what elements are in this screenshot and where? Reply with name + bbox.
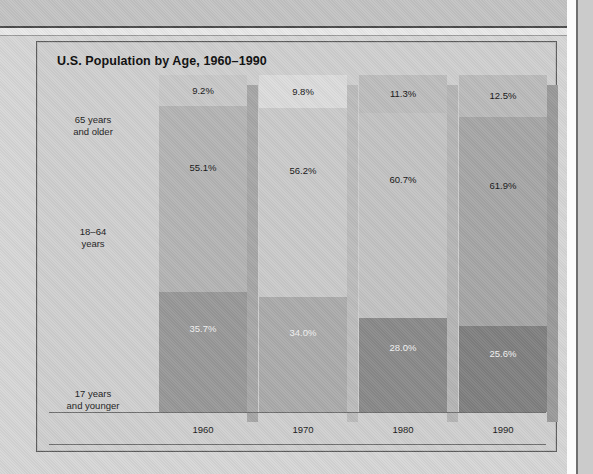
bar-side-shadow bbox=[447, 85, 458, 422]
bar-segment-value-label: 12.5% bbox=[459, 90, 547, 101]
bar-segment-value-label: 35.7% bbox=[159, 323, 247, 334]
bar-segment[interactable]: 55.1% bbox=[159, 106, 247, 292]
bar-segment[interactable]: 25.6% bbox=[459, 326, 547, 412]
age-group-label-line2: years bbox=[45, 238, 141, 250]
bar-segment[interactable]: 12.5% bbox=[459, 75, 547, 117]
bar-segment-value-label: 9.8% bbox=[259, 86, 347, 97]
age-group-label-line1: 17 years bbox=[45, 388, 141, 400]
x-axis-line-top bbox=[49, 412, 546, 413]
chart-plot-area: 65 yearsand older18–64years17 yearsand y… bbox=[37, 42, 558, 453]
x-axis-tick-label-1980: 1980 bbox=[359, 424, 447, 435]
bar-segment[interactable]: 35.7% bbox=[159, 292, 247, 412]
age-group-label-line1: 65 years bbox=[45, 114, 141, 126]
bar-segment-value-label: 25.6% bbox=[459, 348, 547, 359]
bar-side-shadow bbox=[347, 85, 358, 422]
scanned-page: U.S. Population by Age, 1960–1990 65 yea… bbox=[0, 0, 593, 474]
age-group-label-line2: and older bbox=[45, 126, 141, 138]
bar-stack-1960[interactable]: 9.2%55.1%35.7% bbox=[159, 75, 247, 412]
x-axis-tick-label-1960: 1960 bbox=[159, 424, 247, 435]
bar-segment-value-label: 34.0% bbox=[259, 327, 347, 338]
page-right-edge-rule bbox=[576, 0, 578, 474]
bar-segment[interactable]: 9.8% bbox=[259, 75, 347, 108]
age-group-label-0: 65 yearsand older bbox=[45, 114, 141, 137]
bar-segment[interactable]: 61.9% bbox=[459, 117, 547, 326]
bar-segment-value-label: 55.1% bbox=[159, 162, 247, 173]
x-axis-line-bottom bbox=[49, 444, 546, 445]
bar-segment-value-label: 60.7% bbox=[359, 174, 447, 185]
bar-side-shadow bbox=[547, 85, 558, 422]
bar-segment[interactable]: 9.2% bbox=[159, 75, 247, 106]
bar-stack-1990[interactable]: 12.5%61.9%25.6% bbox=[459, 75, 547, 412]
bar-side-shadow bbox=[247, 85, 258, 422]
age-group-label-1: 18–64years bbox=[45, 226, 141, 249]
chart-frame: U.S. Population by Age, 1960–1990 65 yea… bbox=[36, 41, 557, 452]
header-white-gap bbox=[0, 28, 593, 35]
age-group-label-line2: and younger bbox=[45, 400, 141, 412]
bar-segment[interactable]: 34.0% bbox=[259, 297, 347, 412]
age-group-label-line1: 18–64 bbox=[45, 226, 141, 238]
page-right-edge bbox=[577, 0, 593, 474]
bar-segment[interactable]: 56.2% bbox=[259, 108, 347, 297]
bar-stack-1970[interactable]: 9.8%56.2%34.0% bbox=[259, 75, 347, 412]
x-axis-tick-label-1970: 1970 bbox=[259, 424, 347, 435]
bar-segment-value-label: 28.0% bbox=[359, 342, 447, 353]
bar-segment-value-label: 9.2% bbox=[159, 85, 247, 96]
bar-stack-1980[interactable]: 11.3%60.7%28.0% bbox=[359, 75, 447, 412]
bar-segment[interactable]: 28.0% bbox=[359, 318, 447, 412]
page-header-band bbox=[0, 0, 593, 26]
bar-segment-value-label: 61.9% bbox=[459, 180, 547, 191]
bar-segment[interactable]: 11.3% bbox=[359, 75, 447, 113]
bar-segment[interactable]: 60.7% bbox=[359, 113, 447, 318]
age-group-label-2: 17 yearsand younger bbox=[45, 388, 141, 411]
bar-segment-value-label: 56.2% bbox=[259, 165, 347, 176]
bar-segment-value-label: 11.3% bbox=[359, 88, 447, 99]
x-axis-tick-label-1990: 1990 bbox=[459, 424, 547, 435]
